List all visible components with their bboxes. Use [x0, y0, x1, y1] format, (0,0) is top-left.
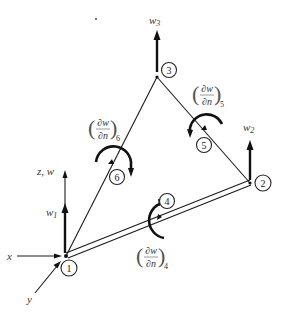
svg-text:5: 5 [220, 100, 224, 109]
x-axis: x [6, 250, 62, 262]
w1-arrow: w1 [46, 203, 69, 253]
svg-text:∂w: ∂w [201, 83, 213, 94]
z-axis-arrowhead [63, 170, 68, 178]
slope-label-5: ( ∂w ∂n ) 5 [192, 81, 224, 109]
z-axis-label: z, w [36, 165, 55, 177]
svg-text:1: 1 [67, 263, 72, 274]
svg-text:(: ( [88, 115, 95, 140]
svg-text:∂w: ∂w [97, 117, 109, 128]
node-label-1: 1 [61, 260, 77, 276]
node-label-2: 2 [255, 175, 271, 191]
y-axis: y [26, 261, 61, 305]
svg-text:∂w: ∂w [145, 245, 157, 256]
w3-arrow: w3 [149, 14, 161, 72]
svg-text:∂n: ∂n [146, 258, 156, 269]
svg-text:4: 4 [164, 262, 168, 271]
slope-label-4: ( ∂w ∂n ) 4 [136, 243, 168, 271]
node-label-3: 3 [162, 63, 177, 78]
moment-4: 4 ( ∂w ∂n ) 4 [136, 194, 175, 272]
svg-text:2: 2 [261, 178, 266, 189]
moment-6: 6 ( ∂w ∂n ) 6 [88, 115, 134, 185]
w2-arrow: w2 [243, 121, 254, 180]
slope-label-6: ( ∂w ∂n ) 6 [88, 115, 120, 143]
svg-text:6: 6 [115, 172, 120, 183]
svg-text:∂n: ∂n [202, 96, 212, 107]
plate-element-diagram: z, w w1 x y w2 w3 1 2 3 [0, 0, 290, 315]
w3-label: w3 [149, 14, 160, 28]
svg-text:5: 5 [202, 140, 207, 151]
svg-text:(: ( [192, 81, 199, 106]
y-axis-arrowhead [54, 261, 62, 269]
y-axis-label: y [26, 293, 32, 305]
w2-label: w2 [243, 121, 254, 135]
node-point-2 [248, 181, 251, 184]
svg-text:6: 6 [116, 134, 120, 143]
svg-text:∂n: ∂n [98, 130, 108, 141]
node-point-3 [155, 75, 158, 78]
svg-text:(: ( [136, 243, 143, 268]
node-point-1 [64, 254, 68, 258]
node-label-6: 6 [110, 170, 125, 185]
x-axis-label: x [6, 250, 12, 262]
svg-text:3: 3 [167, 65, 172, 76]
midpoint-6-arrow [108, 159, 114, 164]
x-axis-arrowhead [54, 254, 62, 259]
stray-dot [95, 18, 97, 20]
edge-1-3 [66, 77, 157, 256]
w1-label: w1 [46, 206, 57, 220]
node-label-4: 4 [160, 194, 175, 209]
node-label-5: 5 [197, 138, 212, 153]
svg-text:4: 4 [165, 196, 170, 207]
